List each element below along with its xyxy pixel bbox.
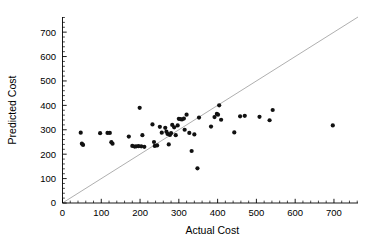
data-point — [192, 132, 196, 136]
data-point — [79, 131, 83, 135]
data-point — [232, 130, 236, 134]
data-point — [142, 145, 146, 149]
data-point — [155, 143, 159, 147]
plot-canvas: 0100200300400500600700010020030040050060… — [0, 0, 377, 250]
y-axis-tick-label: 700 — [40, 27, 56, 38]
reference-line-group — [63, 17, 359, 203]
x-axis-title: Actual Cost — [185, 224, 239, 236]
x-axis-tick-label: 100 — [93, 207, 109, 218]
data-point — [160, 131, 164, 135]
data-point — [110, 142, 114, 146]
data-point — [158, 125, 162, 129]
x-axis-tick-label: 200 — [132, 207, 148, 218]
data-point — [209, 124, 213, 128]
data-point — [167, 142, 171, 146]
data-point — [190, 149, 194, 153]
y-axis-tick-label: 200 — [40, 149, 56, 160]
data-point — [184, 113, 188, 117]
y-axis-tick-label: 600 — [40, 51, 56, 62]
y-axis-title: Predicted Cost — [6, 75, 18, 144]
data-point — [219, 118, 223, 122]
data-point — [140, 133, 144, 137]
data-point — [150, 122, 154, 126]
data-point — [174, 133, 178, 137]
data-point — [197, 115, 201, 119]
x-axis-tick-label: 600 — [287, 207, 303, 218]
x-axis-tick-label: 0 — [60, 207, 65, 218]
data-point — [163, 126, 167, 130]
x-axis-tick-label: 700 — [326, 207, 342, 218]
data-point — [243, 114, 247, 118]
data-point — [169, 131, 173, 135]
x-axis: 0100200300400500600700 — [60, 199, 358, 218]
y-axis-tick-label: 300 — [40, 124, 56, 135]
scatter-plot-figure: 0100200300400500600700010020030040050060… — [0, 0, 377, 250]
y-axis: 0100200300400500600700 — [40, 17, 67, 208]
x-axis-tick-label: 500 — [248, 207, 264, 218]
y-axis-tick-label: 100 — [40, 173, 56, 184]
data-point — [138, 106, 142, 110]
x-axis-tick-label: 400 — [210, 207, 226, 218]
x-axis-tick-label: 300 — [171, 207, 187, 218]
data-point — [98, 131, 102, 135]
data-point — [195, 166, 199, 170]
data-point — [187, 131, 191, 135]
data-point — [331, 123, 335, 127]
data-point — [182, 116, 186, 120]
data-point — [152, 140, 156, 144]
y-axis-tick-label: 500 — [40, 75, 56, 86]
data-point — [217, 103, 221, 107]
data-point — [127, 135, 131, 139]
data-point — [108, 131, 112, 135]
y-axis-tick-label: 0 — [51, 197, 56, 208]
data-point — [238, 114, 242, 118]
y-axis-tick-label: 400 — [40, 100, 56, 111]
data-point — [257, 115, 261, 119]
identity-line — [63, 17, 359, 203]
data-point — [183, 128, 187, 132]
data-point — [267, 118, 271, 122]
data-series-cost-estimates — [79, 103, 335, 170]
data-point — [271, 108, 275, 112]
data-point — [81, 143, 85, 147]
data-point — [176, 123, 180, 127]
data-point — [216, 113, 220, 117]
